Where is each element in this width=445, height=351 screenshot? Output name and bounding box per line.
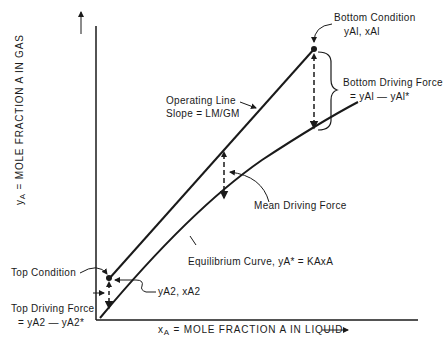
mean-driving-force-pointer [230,172,269,202]
bottom-condition-point [311,46,317,52]
y-axis-label: yA = MOLE FRACTION A IN GAS [14,34,27,205]
top-driving-force-title: Top Driving Force [11,303,94,315]
top-condition-label: Top Condition [11,267,76,279]
equilibrium-pointer [190,236,196,245]
bottom-driving-force-equation: = yAl — yAl* [350,91,409,103]
top-condition-point [106,275,112,281]
top-condition-pointer [80,268,107,274]
bottom-driving-force-title: Bottom Driving Force [343,77,443,89]
operating-line-pointer [240,102,256,108]
bottom-condition-pointer [314,24,332,42]
top-point-pointer [115,280,156,292]
bottom-condition-title: Bottom Condition [334,12,416,24]
operating-line [108,48,315,280]
bottom-condition-values: yAl, xAl [344,26,380,38]
operating-line-slope: Slope = LM/GM [166,108,240,120]
top-point-values: yA2, xA2 [158,286,200,298]
x-axis-label: xA = MOLE FRACTION A IN LIQUID [158,324,343,337]
diagram-canvas [0,0,445,351]
operating-line-title: Operating Line [166,95,236,107]
top-driving-force-equation: = yA2 — yA2* [18,317,84,329]
mean-driving-force-label: Mean Driving Force [254,200,347,212]
equilibrium-curve-label: Equilibrium Curve, yA* = KAxA [188,256,333,268]
